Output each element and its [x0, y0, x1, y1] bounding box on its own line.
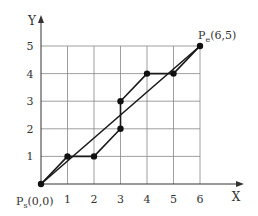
interpolation-diagram: 12345612345 Y X Ps(0,0) Pe(6,5): [0, 0, 258, 216]
y-tick-label: 3: [27, 95, 34, 108]
path-point: [117, 126, 123, 132]
x-tick-label: 5: [170, 193, 177, 206]
path-point: [91, 153, 97, 159]
path-point: [38, 181, 44, 187]
x-tick-label: 4: [144, 193, 151, 206]
path-point: [170, 70, 176, 76]
path-point: [64, 153, 70, 159]
x-tick-label: 2: [91, 193, 98, 206]
path-point: [144, 70, 150, 76]
path-point: [117, 98, 123, 104]
start-point-label: Ps(0,0): [16, 195, 54, 210]
y-tick-label: 5: [27, 40, 34, 53]
y-tick-label: 4: [27, 68, 34, 81]
end-point-label: Pe(6,5): [198, 29, 236, 44]
x-tick-label: 1: [64, 193, 71, 206]
y-axis-label: Y: [27, 14, 37, 28]
tick-labels: 12345612345: [27, 40, 204, 206]
path-point: [197, 43, 203, 49]
y-tick-label: 1: [27, 150, 34, 163]
x-axis-label: X: [232, 190, 241, 204]
x-tick-label: 6: [197, 193, 204, 206]
x-tick-label: 3: [117, 193, 124, 206]
y-axis-arrow-icon: [38, 15, 44, 23]
y-tick-label: 2: [27, 123, 34, 136]
x-axis-arrow-icon: [236, 181, 244, 187]
